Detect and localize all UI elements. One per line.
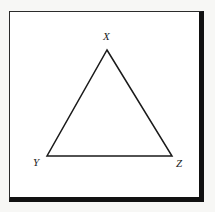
vertex-label-z: Z — [176, 158, 182, 169]
triangle-polygon — [47, 50, 172, 156]
figure-root: X Y Z — [0, 0, 215, 212]
vertex-label-y: Y — [33, 157, 39, 168]
vertex-label-x: X — [103, 31, 110, 42]
